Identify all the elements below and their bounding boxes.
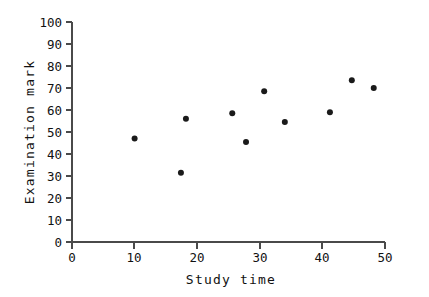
chart-canvas: 100 90 80 70 60 50 40 30 20 10 0 0 10 20… — [0, 0, 429, 297]
y-tick-label: 20 — [47, 191, 62, 206]
y-tick-marks — [66, 22, 72, 242]
data-point-layer — [132, 77, 377, 175]
data-point — [349, 77, 355, 83]
y-axis-title: Examination mark — [22, 60, 37, 204]
y-tick-label: 30 — [47, 169, 62, 184]
data-point — [371, 85, 377, 91]
y-tick-label: 10 — [47, 213, 62, 228]
y-tick-label: 70 — [47, 81, 62, 96]
data-point — [178, 170, 184, 176]
y-tick-label: 0 — [54, 235, 62, 250]
y-tick-label: 90 — [47, 37, 62, 52]
scatter-plot-figure: 100 90 80 70 60 50 40 30 20 10 0 0 10 20… — [0, 0, 429, 297]
y-tick-label: 60 — [47, 103, 62, 118]
x-tick-label: 30 — [252, 250, 267, 265]
x-tick-label: 10 — [126, 250, 141, 265]
x-tick-label: 50 — [377, 250, 392, 265]
data-point — [183, 116, 189, 122]
y-tick-label: 50 — [47, 125, 62, 140]
y-tick-label: 100 — [39, 15, 62, 30]
y-tick-labels: 100 90 80 70 60 50 40 30 20 10 0 — [39, 15, 62, 250]
data-point — [229, 110, 235, 116]
x-tick-marks — [72, 242, 385, 249]
x-tick-labels: 0 10 20 30 40 50 — [68, 250, 392, 265]
data-point — [132, 136, 138, 142]
y-tick-label: 80 — [47, 59, 62, 74]
data-point — [243, 139, 249, 145]
y-tick-label: 40 — [47, 147, 62, 162]
x-axis-title: Study time — [186, 272, 276, 287]
x-tick-label: 0 — [68, 250, 76, 265]
data-point — [282, 119, 288, 125]
x-tick-label: 40 — [314, 250, 329, 265]
data-point — [327, 109, 333, 115]
x-tick-label: 20 — [189, 250, 204, 265]
data-point — [261, 88, 267, 94]
